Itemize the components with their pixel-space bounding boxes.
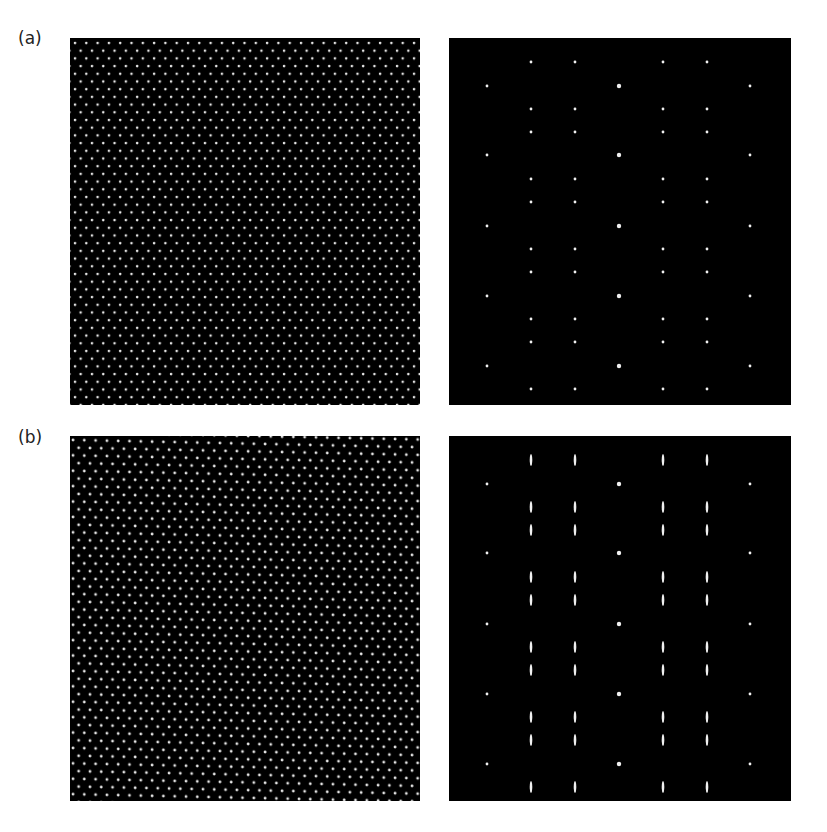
panel-label-a: (a) bbox=[18, 28, 42, 48]
panel-label-b: (b) bbox=[18, 427, 42, 447]
diffraction-pattern-b bbox=[449, 436, 791, 801]
diffraction-pattern-a bbox=[449, 38, 791, 405]
real-space-lattice-a bbox=[70, 38, 420, 405]
real-space-lattice-b bbox=[70, 436, 420, 801]
